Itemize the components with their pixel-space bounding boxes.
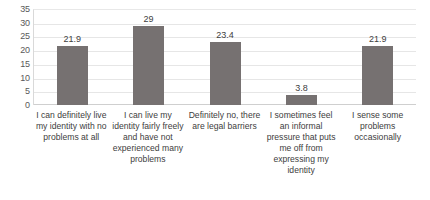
x-axis-category-label: I sometimes feel an informal pressure th…	[263, 110, 340, 176]
bar-slot: 21.9	[34, 10, 110, 105]
y-axis-tick: 15	[0, 59, 30, 69]
x-axis-category-label: Definitely no, there are legal barriers	[186, 110, 263, 132]
y-axis-tick: 35	[0, 4, 30, 14]
y-axis-tick: 30	[0, 18, 30, 28]
x-axis-category-label: I sense some problems occasionally	[339, 110, 416, 143]
y-axis-tick: 10	[0, 73, 30, 83]
bar[interactable]: 23.4	[210, 42, 241, 106]
y-axis-tick: 5	[0, 86, 30, 96]
bar-slot: 21.9	[340, 10, 416, 105]
plot-area: 21.9 29 23.4 3.8 21.9	[33, 9, 416, 105]
y-axis-tick: 25	[0, 31, 30, 41]
bar-chart: 35 30 25 20 15 10 5 0 21.9 29	[0, 0, 430, 200]
bar-slot: 3.8	[263, 10, 339, 105]
bar-value-label: 3.8	[295, 83, 308, 93]
y-axis-tick: 0	[0, 100, 30, 110]
x-axis-category-label: I can definitely live my identity with n…	[33, 110, 110, 143]
bar[interactable]: 21.9	[362, 46, 393, 105]
bar-value-label: 23.4	[216, 30, 234, 40]
bar-value-label: 21.9	[63, 34, 81, 44]
bar-slot: 23.4	[187, 10, 263, 105]
bar[interactable]: 21.9	[57, 46, 88, 105]
bar-series: 21.9 29 23.4 3.8 21.9	[34, 10, 416, 105]
bar-slot: 29	[110, 10, 186, 105]
y-axis-tick: 20	[0, 45, 30, 55]
x-axis-category-labels: I can definitely live my identity with n…	[33, 110, 416, 176]
bar-value-label: 29	[144, 14, 154, 24]
bar[interactable]: 3.8	[286, 95, 317, 105]
bar[interactable]: 29	[133, 26, 164, 105]
y-axis: 35 30 25 20 15 10 5 0	[0, 4, 30, 110]
bar-value-label: 21.9	[369, 34, 387, 44]
x-axis-category-label: I can live my identity fairly freely and…	[110, 110, 187, 165]
